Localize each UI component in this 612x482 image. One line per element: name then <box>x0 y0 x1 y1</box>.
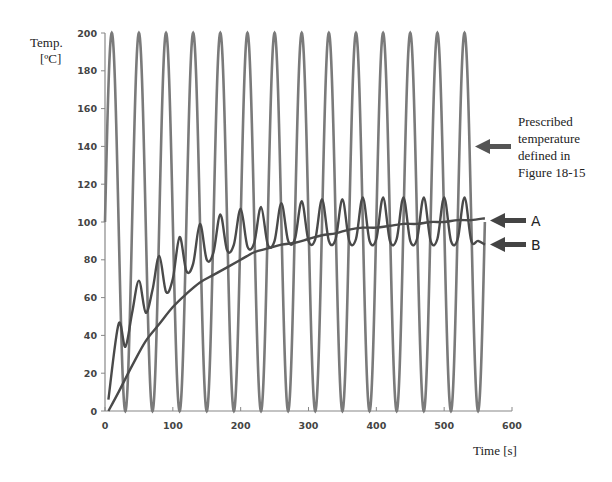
y-tick-label: 180 <box>77 65 97 76</box>
y-tick-label: 100 <box>77 217 97 228</box>
marker-b-label: B <box>531 237 541 253</box>
y-axis-label-line2: [ºC] <box>40 51 61 66</box>
series-layer <box>105 33 485 411</box>
x-tick-label: 0 <box>102 420 109 431</box>
x-tick-label: 500 <box>434 420 454 431</box>
x-tick-label: 300 <box>299 420 319 431</box>
x-tick-label: 200 <box>231 420 251 431</box>
temperature-chart: 0100200300400500600020406080100120140160… <box>0 0 612 482</box>
y-tick-label: 0 <box>90 406 97 417</box>
y-tick-label: 40 <box>84 330 98 341</box>
x-axis-label: Time [s] <box>473 443 517 458</box>
note-line-2: temperature <box>518 131 580 146</box>
y-tick-label: 60 <box>84 292 98 303</box>
note-line-3: defined in <box>518 148 571 163</box>
y-tick-label: 120 <box>77 179 97 190</box>
x-tick-label: 400 <box>366 420 386 431</box>
y-tick-label: 140 <box>77 141 97 152</box>
marker-b: B <box>490 237 541 253</box>
marker-a-label: A <box>531 213 541 229</box>
note-line-4: Figure 18-15 <box>518 165 586 180</box>
prescribed-temperature-note: Prescribed temperature defined in Figure… <box>475 114 586 180</box>
x-tick-label: 600 <box>502 420 522 431</box>
arrow-icon <box>490 213 526 228</box>
arrow-icon <box>490 237 526 252</box>
note-line-1: Prescribed <box>518 114 573 129</box>
x-tick-label: 100 <box>163 420 183 431</box>
arrow-icon <box>475 139 511 154</box>
y-tick-label: 80 <box>84 254 98 265</box>
marker-a: A <box>490 213 541 229</box>
y-tick-label: 160 <box>77 103 97 114</box>
y-tick-label: 20 <box>84 368 98 379</box>
axes: 0100200300400500600020406080100120140160… <box>77 28 522 432</box>
y-tick-label: 200 <box>77 28 97 39</box>
y-axis-label-line1: Temp. <box>30 35 63 50</box>
